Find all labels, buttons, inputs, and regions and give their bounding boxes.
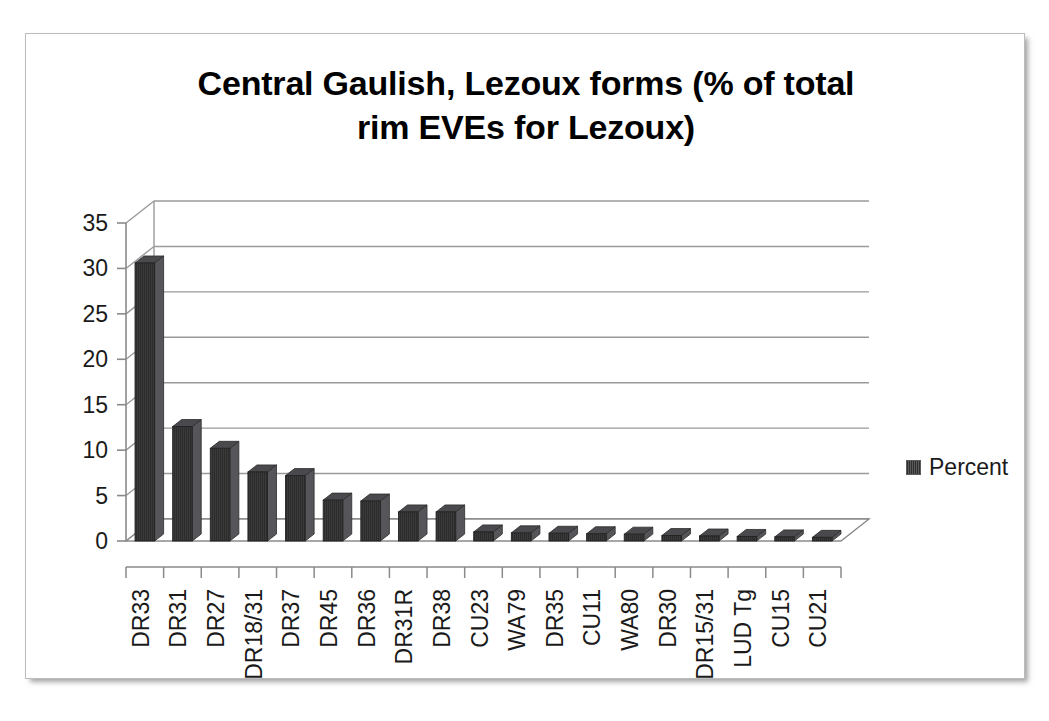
svg-text:25: 25 <box>82 301 108 327</box>
svg-text:DR35: DR35 <box>542 589 568 648</box>
svg-text:10: 10 <box>82 437 108 463</box>
svg-text:DR45: DR45 <box>316 589 342 648</box>
svg-text:0: 0 <box>95 528 108 554</box>
svg-text:CU21: CU21 <box>805 589 831 648</box>
chart-legend: Percent <box>906 454 1008 481</box>
svg-text:20: 20 <box>82 346 108 372</box>
svg-text:DR36: DR36 <box>354 589 380 648</box>
svg-text:CU11: CU11 <box>579 589 605 646</box>
screenshot-root: Central Gaulish, Lezoux forms (% of tota… <box>0 0 1049 721</box>
chart-frame: Central Gaulish, Lezoux forms (% of tota… <box>25 33 1025 679</box>
svg-text:15: 15 <box>82 392 108 418</box>
svg-text:35: 35 <box>82 210 108 236</box>
svg-text:WA79: WA79 <box>504 589 530 651</box>
svg-text:DR30: DR30 <box>655 589 681 648</box>
svg-text:DR33: DR33 <box>128 589 154 648</box>
svg-text:LUD Tg: LUD Tg <box>730 589 756 668</box>
svg-text:DR31R: DR31R <box>391 589 417 664</box>
svg-text:WA80: WA80 <box>617 589 643 651</box>
legend-label-percent: Percent <box>929 454 1008 481</box>
svg-text:DR31: DR31 <box>165 589 191 648</box>
plot-area: 05101520253035DR33DR31DR27DR18/31DR37DR4… <box>26 34 1026 680</box>
svg-text:DR15/31: DR15/31 <box>692 589 718 680</box>
svg-text:5: 5 <box>95 483 108 509</box>
svg-text:30: 30 <box>82 255 108 281</box>
svg-text:DR18/31: DR18/31 <box>241 589 267 680</box>
svg-text:DR38: DR38 <box>429 589 455 648</box>
svg-text:CU23: CU23 <box>467 589 493 648</box>
percent-series-swatch <box>906 460 921 475</box>
svg-text:DR27: DR27 <box>203 589 229 648</box>
svg-text:CU15: CU15 <box>768 589 794 648</box>
svg-text:DR37: DR37 <box>278 589 304 648</box>
